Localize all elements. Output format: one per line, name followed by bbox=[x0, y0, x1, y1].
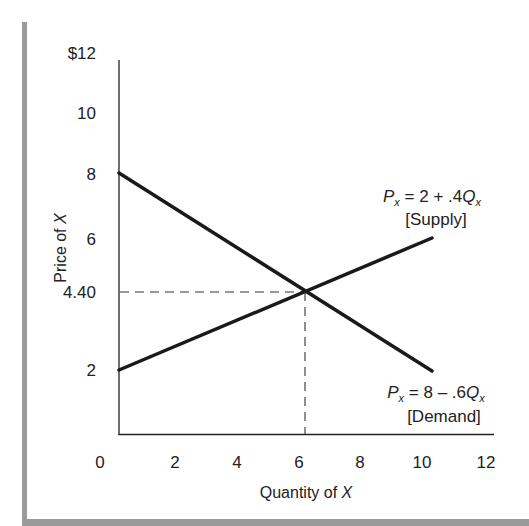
x-tick-10: 10 bbox=[413, 453, 432, 472]
x-axis-title: Quantity of X bbox=[260, 484, 354, 501]
y-tick-6: 6 bbox=[87, 230, 96, 249]
supply-label: [Supply] bbox=[405, 210, 466, 229]
x-tick-6: 6 bbox=[294, 453, 303, 472]
demand-label: [Demand] bbox=[407, 407, 481, 426]
supply-line bbox=[119, 238, 432, 370]
y-tick-12: $12 bbox=[68, 44, 96, 63]
y-tick-labels: $12 10 8 6 4.40 2 bbox=[63, 44, 96, 380]
y-axis-title: Price of X bbox=[52, 212, 69, 283]
x-tick-labels: 0 2 4 6 8 10 12 bbox=[95, 453, 495, 472]
x-tick-12: 12 bbox=[477, 453, 496, 472]
supply-demand-chart: $12 10 8 6 4.40 2 0 2 4 6 8 10 12 Quanti… bbox=[0, 0, 529, 526]
x-tick-0: 0 bbox=[95, 453, 104, 472]
y-tick-2: 2 bbox=[87, 361, 96, 380]
x-tick-8: 8 bbox=[355, 453, 364, 472]
x-tick-4: 4 bbox=[232, 453, 241, 472]
x-tick-2: 2 bbox=[170, 453, 179, 472]
y-tick-10: 10 bbox=[77, 104, 96, 123]
supply-equation: Px = 2 + .4Qx bbox=[383, 187, 481, 208]
demand-equation: Px = 8 – .6Qx bbox=[387, 383, 485, 404]
y-tick-4-40: 4.40 bbox=[63, 283, 96, 302]
y-tick-8: 8 bbox=[87, 165, 96, 184]
